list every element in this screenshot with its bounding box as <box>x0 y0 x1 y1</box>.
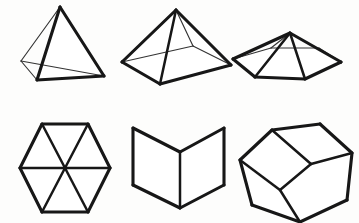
shape-dodecahedron <box>240 124 352 222</box>
shape-open-corner-box <box>133 128 224 208</box>
shape-square-pyramid <box>122 10 231 84</box>
hexagonal-pyramid-edge-b2-b3 <box>255 77 305 79</box>
shape-hexagonal-pyramid <box>233 33 341 79</box>
shape-tetrahedron <box>21 7 104 80</box>
geometric-solids-figure <box>0 0 359 223</box>
figure-canvas <box>0 0 359 223</box>
shape-hexagon-six-triangles <box>20 124 110 212</box>
